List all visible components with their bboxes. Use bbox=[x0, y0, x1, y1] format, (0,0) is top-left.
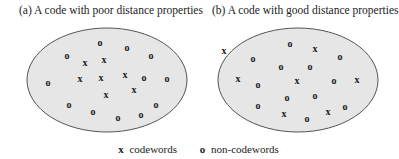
codeword-marker: x bbox=[99, 72, 104, 83]
codeword-x-icon: x bbox=[118, 143, 124, 155]
codeword-marker: x bbox=[236, 73, 241, 84]
codeword-marker: x bbox=[355, 74, 360, 85]
codeword-marker: x bbox=[295, 75, 300, 86]
non-codeword-marker: o bbox=[116, 112, 121, 123]
non-codeword-marker: o bbox=[91, 106, 96, 117]
codeword-marker: x bbox=[222, 45, 227, 56]
codeword-marker: x bbox=[326, 106, 331, 117]
legend-item-non-codewords: o non-codewords bbox=[200, 143, 279, 155]
legend-item-codewords: x codewords bbox=[118, 143, 177, 155]
panel-b-code-space: oxxooooxoxoxoooxoxo bbox=[218, 28, 378, 132]
legend-non-codewords-label: non-codewords bbox=[211, 143, 279, 155]
non-codeword-marker: o bbox=[285, 92, 290, 103]
codeword-marker: x bbox=[78, 73, 83, 84]
non-codeword-marker: o bbox=[149, 50, 154, 61]
non-codeword-marker: o bbox=[305, 113, 310, 124]
codeword-marker: x bbox=[102, 54, 107, 65]
non-codeword-marker: o bbox=[46, 77, 51, 88]
non-codeword-marker: o bbox=[165, 73, 170, 84]
codeword-marker: x bbox=[104, 89, 109, 100]
non-codeword-marker: o bbox=[139, 109, 144, 120]
non-codeword-marker: o bbox=[308, 61, 313, 72]
non-codeword-marker: o bbox=[256, 100, 261, 111]
non-codeword-marker: o bbox=[251, 53, 256, 64]
non-codeword-marker: o bbox=[98, 37, 103, 48]
non-codeword-marker: o bbox=[338, 51, 343, 62]
non-codeword-marker: o bbox=[288, 38, 293, 49]
codeword-marker: x bbox=[313, 43, 318, 54]
legend-codewords-label: codewords bbox=[129, 143, 177, 155]
non-codeword-marker: o bbox=[256, 79, 261, 90]
non-codeword-marker: o bbox=[154, 99, 159, 110]
non-codeword-marker: o bbox=[332, 75, 337, 86]
non-codeword-marker: o bbox=[142, 72, 147, 83]
non-codeword-marker: o bbox=[343, 101, 348, 112]
non-codeword-marker: o bbox=[313, 90, 318, 101]
codeword-marker: x bbox=[123, 69, 128, 80]
codeword-marker: x bbox=[282, 108, 287, 119]
non-codeword-o-icon: o bbox=[200, 143, 206, 155]
codeword-marker: x bbox=[83, 57, 88, 68]
non-codeword-marker: o bbox=[67, 99, 72, 110]
non-codeword-marker: o bbox=[65, 50, 70, 61]
codeword-marker: x bbox=[132, 84, 137, 95]
non-codeword-marker: o bbox=[279, 61, 284, 72]
legend: x codewords o non-codewords bbox=[0, 143, 397, 155]
panel-a-code-space: ooooxxxxxoooxxooooo bbox=[27, 28, 187, 132]
non-codeword-marker: o bbox=[125, 42, 130, 53]
code-space-ellipse bbox=[27, 28, 187, 132]
